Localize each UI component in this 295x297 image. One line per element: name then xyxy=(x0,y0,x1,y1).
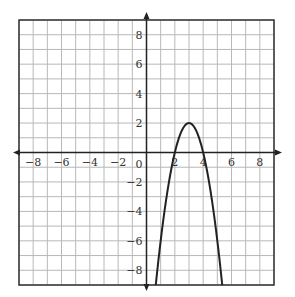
x-tick-label: −2 xyxy=(110,156,126,169)
axes xyxy=(13,12,282,291)
y-tick-label: 2 xyxy=(136,117,143,130)
y-tick-label: −2 xyxy=(126,176,142,189)
x-tick-label: −6 xyxy=(53,156,69,169)
x-tick-label: 8 xyxy=(256,156,263,169)
y-tick-label: 6 xyxy=(136,58,143,71)
y-tick-label: 8 xyxy=(136,29,143,42)
x-tick-label: −4 xyxy=(82,156,98,169)
y-tick-label: 4 xyxy=(136,88,143,101)
y-axis-down-arrow-icon xyxy=(144,284,150,291)
coordinate-plane-chart: −8−6−4−224688642−2−4−6−80 xyxy=(0,0,295,297)
y-tick-label: −8 xyxy=(126,264,142,277)
x-tick-label: 6 xyxy=(228,156,235,169)
x-tick-label: −8 xyxy=(25,156,41,169)
y-axis-up-arrow-icon xyxy=(144,12,150,19)
y-tick-label: −6 xyxy=(126,235,142,248)
x-axis-right-arrow-icon xyxy=(275,150,282,156)
origin-label: 0 xyxy=(136,158,143,171)
y-tick-label: −4 xyxy=(126,205,142,218)
x-axis-left-arrow-icon xyxy=(13,150,20,156)
